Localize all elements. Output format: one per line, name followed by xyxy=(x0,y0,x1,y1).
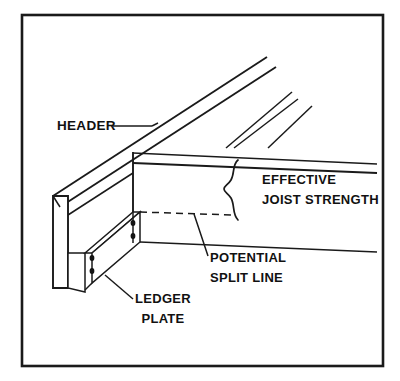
header-end-face xyxy=(53,196,68,288)
effective-joist-strength-brace xyxy=(224,160,238,220)
diagram-border xyxy=(22,15,383,366)
header-beam-lower-edge xyxy=(60,67,276,207)
joist-line-3 xyxy=(268,106,312,148)
potential-split-leader-line xyxy=(194,214,208,256)
joist-line-2a xyxy=(226,92,292,148)
ledger-plate-label-line1: LEDGER xyxy=(135,291,191,306)
figure-root: HEADER EFFECTIVE JOIST STRENGTH POTENTIA… xyxy=(0,0,400,381)
nail-dot-1 xyxy=(131,220,136,226)
potential-split-dashed-line xyxy=(140,212,233,215)
ledger-plate-diagram: HEADER EFFECTIVE JOIST STRENGTH POTENTIA… xyxy=(0,0,400,381)
header-label: HEADER xyxy=(57,118,116,133)
potential-split-line-label-line2: SPLIT LINE xyxy=(210,270,283,285)
effective-joist-strength-label-line1: EFFECTIVE xyxy=(262,172,336,187)
ledger-plate-leader-line xyxy=(105,275,133,299)
nail-dot-4 xyxy=(90,268,95,274)
joist-diagonal-lines xyxy=(226,92,312,148)
header-leader-tip xyxy=(152,123,158,126)
header-beam xyxy=(53,57,276,215)
ledger-end-face xyxy=(68,253,85,292)
ledger-plate-bottom-bevel xyxy=(85,283,92,290)
joist-line-2b xyxy=(234,99,298,148)
band-board-second-line xyxy=(133,163,377,173)
nail-dot-2 xyxy=(131,233,136,239)
effective-joist-strength-label-line2: JOIST STRENGTH xyxy=(262,192,379,207)
nail-dot-3 xyxy=(90,255,95,261)
header-end-block xyxy=(53,196,85,292)
band-board-top-line xyxy=(133,153,377,164)
ledger-plate xyxy=(85,212,140,290)
ledger-plate-label-line2: PLATE xyxy=(141,311,184,326)
potential-split-line-label-line1: POTENTIAL xyxy=(210,250,286,265)
